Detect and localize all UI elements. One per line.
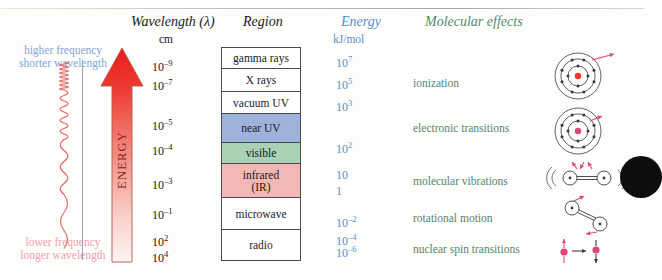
- wavelength-tick-value: 10–7: [152, 79, 173, 93]
- molecular-effect-label: nuclear spin transitions: [413, 243, 520, 255]
- energy-tick: 103: [336, 98, 382, 115]
- region-label: near UV: [241, 122, 280, 134]
- energy-tick-value: 105: [336, 78, 352, 92]
- energy-tick: 1: [336, 184, 382, 199]
- wavelength-tick-value: 10–5: [152, 119, 173, 133]
- molecular-effect-label: rotational motion: [413, 212, 493, 224]
- molecular-effects-column-header: Molecular effects: [425, 14, 523, 30]
- wavelength-tick: 10–3: [152, 176, 202, 193]
- wavelength-tick: 10–4: [152, 142, 202, 159]
- wavelength-tick: 10–9: [152, 58, 202, 75]
- region-label: visible: [246, 147, 277, 159]
- region-label: vacuum UV: [233, 97, 289, 109]
- region-table: gamma raysX raysvacuum UVnear UVvisiblei…: [221, 47, 301, 261]
- energy-tick: 10–2: [336, 214, 382, 231]
- wavelength-unit-label: cm: [159, 33, 173, 45]
- wavelength-tick: 10–1: [152, 206, 202, 223]
- nuclear-spin: [552, 238, 612, 268]
- atom-ionization: [548, 48, 620, 108]
- diatomic-rotation: [552, 196, 624, 240]
- energy-tick-value: 10–6: [336, 246, 357, 260]
- wavelength-tick: 104: [152, 249, 202, 266]
- energy-tick: 102: [336, 140, 382, 157]
- top-rule: [0, 8, 644, 9]
- diatomic-vibration: [546, 160, 628, 194]
- wavelength-tick-value: 10–3: [152, 178, 173, 192]
- wavelength-tick-value: 10–9: [152, 60, 173, 74]
- energy-tick: 10: [336, 168, 382, 183]
- region-label: gamma rays: [233, 52, 289, 64]
- region-label: microwave: [235, 208, 286, 220]
- energy-tick-value: 107: [336, 56, 352, 70]
- region-label: radio: [249, 239, 273, 251]
- energy-tick: 107: [336, 54, 382, 71]
- region-row: visible: [222, 143, 300, 164]
- energy-tick-value: 103: [336, 100, 352, 114]
- region-row: X rays: [222, 69, 300, 92]
- region-row: gamma rays: [222, 48, 300, 69]
- energy-tick-value: 1: [336, 184, 342, 198]
- wavelength-tick-value: 10–4: [152, 144, 173, 158]
- atom-electronic: [548, 103, 620, 163]
- molecular-effect-label: ionization: [413, 77, 459, 89]
- region-row: near UV: [222, 114, 300, 143]
- wavelength-tick: 10–7: [152, 77, 202, 94]
- region-label: X rays: [246, 74, 276, 86]
- wavelength-tick: 10–5: [152, 117, 202, 134]
- wavelength-tick-value: 102: [152, 235, 168, 249]
- wavelength-tick: 102: [152, 233, 202, 250]
- region-row: radio: [222, 230, 300, 260]
- energy-column-header: Energy: [341, 14, 381, 30]
- wavelength-column-header: Wavelength (λ): [131, 14, 215, 30]
- energy-unit-label: kJ/mol: [333, 33, 364, 45]
- region-row: vacuum UV: [222, 92, 300, 114]
- energy-tick-value: 10: [336, 168, 348, 182]
- wavelength-tick-value: 10–1: [152, 208, 173, 222]
- wavelength-tick-value: 104: [152, 251, 168, 265]
- energy-arrow-label: ENERGY: [82, 138, 162, 182]
- energy-tick-value: 102: [336, 142, 352, 156]
- region-row: infrared(IR): [222, 164, 300, 198]
- energy-tick: 105: [336, 76, 382, 93]
- region-row: microwave: [222, 198, 300, 230]
- energy-tick-value: 10–2: [336, 216, 357, 230]
- molecular-effect-label: molecular vibrations: [413, 175, 508, 187]
- energy-tick: 10–6: [336, 244, 382, 261]
- region-column-header: Region: [243, 14, 283, 30]
- molecular-effect-label: electronic transitions: [413, 122, 509, 134]
- scan-artifact-blob: [620, 156, 662, 198]
- region-label: infrared(IR): [243, 169, 279, 193]
